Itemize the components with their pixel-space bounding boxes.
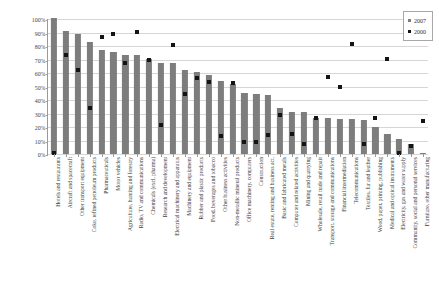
bar-column	[167, 19, 179, 154]
marker-2000	[159, 123, 163, 127]
bar-column	[215, 19, 227, 154]
category-label-text: Chemicals (excl. pharma)	[150, 157, 156, 215]
bar-column	[143, 19, 155, 154]
marker-2000	[421, 119, 425, 123]
bar-2007	[158, 63, 164, 154]
bar-2007	[206, 75, 212, 154]
bar-column	[262, 19, 274, 154]
category-label-text: Wood, paper, printing, publishing	[377, 157, 383, 232]
category-label-text: Financial intermediation	[341, 157, 347, 212]
bar-2007	[194, 72, 200, 154]
category-label: Aircraft and spacecraft	[67, 157, 73, 208]
bar-2007	[301, 112, 307, 154]
bar-column	[346, 19, 358, 154]
chart-legend: 2007 2000	[403, 11, 434, 41]
category-label-text: Wholesale, retail trade and repair	[317, 157, 323, 231]
marker-2000	[314, 116, 318, 120]
y-tick-label: 60%	[35, 71, 46, 77]
marker-2000	[254, 140, 258, 144]
category-label: Electrical machinery and apparatus	[174, 157, 180, 236]
category-label-text: Telecommunications	[353, 157, 359, 204]
category-label-text: Non-metallic mineral products	[234, 157, 240, 226]
category-label-text: Transport, storage and communications	[329, 157, 335, 245]
category-label: Other transport equipment	[79, 157, 85, 216]
category-label: Rubber and plastic products	[198, 157, 204, 220]
bar-2007	[384, 134, 390, 154]
bar-2007	[170, 63, 176, 154]
bar-2007	[63, 31, 69, 154]
y-tick-label: 20%	[35, 125, 46, 131]
category-label: Real estate, renting and business act.	[269, 157, 275, 239]
category-label: Pharmaceuticals	[103, 157, 109, 194]
y-tick-label: 50%	[35, 85, 46, 91]
bar-2007	[325, 118, 331, 154]
bar-2007	[253, 94, 259, 154]
category-label: Basic and fabricated metals	[281, 157, 287, 219]
marker-2000	[350, 42, 354, 46]
legend-swatch-2000	[408, 30, 412, 34]
marker-2000	[64, 53, 68, 57]
bar-column	[227, 19, 239, 154]
y-tick-label: 0%	[38, 152, 46, 158]
category-label: Other business activities	[222, 157, 228, 212]
bar-2007	[337, 119, 343, 154]
marker-2000	[183, 92, 187, 96]
category-label: Coke, refined petroleum products	[91, 157, 97, 232]
bar-column	[322, 19, 334, 154]
category-label-text: Agriculture, hunting and forestry	[127, 157, 133, 231]
marker-2000	[385, 57, 389, 61]
bar-2007	[75, 34, 81, 154]
marker-2000	[147, 58, 151, 62]
category-label-text: Research and development	[162, 157, 168, 217]
category-label: Chemicals (excl. pharma)	[150, 157, 156, 215]
bar-2007	[265, 95, 271, 154]
marker-2000	[266, 133, 270, 137]
gridline: 0%	[48, 154, 428, 155]
bar-column	[274, 19, 286, 154]
bar-2007	[122, 55, 128, 154]
bar-2007	[349, 119, 355, 154]
category-label: Financial intermediation	[341, 157, 347, 212]
category-label: Research and development	[162, 157, 168, 217]
marker-2000	[409, 144, 413, 148]
category-label-text: Computer and related activities	[293, 157, 299, 227]
category-label: Community, social and personal services	[412, 157, 418, 248]
bar-2007	[51, 18, 57, 154]
category-label: Motor vehicles	[115, 157, 121, 191]
category-label-text: Aircraft and spacecraft	[67, 157, 73, 208]
bar-column	[108, 19, 120, 154]
category-label: Furniture, other manufacturing	[424, 157, 430, 226]
bar-column	[155, 19, 167, 154]
bar-2007	[98, 50, 104, 154]
bar-column	[96, 19, 108, 154]
marker-2000	[362, 142, 366, 146]
marker-2000	[278, 113, 282, 117]
category-label: Non-metallic mineral products	[234, 157, 240, 226]
bar-2007	[182, 70, 188, 154]
y-tick-label: 10%	[35, 139, 46, 145]
y-tick-label: 70%	[35, 58, 46, 64]
marker-2000	[373, 116, 377, 120]
legend-item: 2007	[408, 15, 427, 26]
category-label: Telecommunications	[353, 157, 359, 204]
category-label-text: Office machinery, computers	[246, 157, 252, 222]
bar-column	[286, 19, 298, 154]
legend-swatch-2007	[408, 19, 412, 23]
marker-2000	[111, 32, 115, 36]
bar-column	[310, 19, 322, 154]
bar-2007	[229, 84, 235, 154]
category-label-text: Pharmaceuticals	[103, 157, 109, 194]
category-label: Construction	[258, 157, 264, 186]
legend-label-2007: 2007	[414, 18, 426, 24]
marker-2000	[242, 140, 246, 144]
category-label-text: Coke, refined petroleum products	[91, 157, 97, 232]
marker-2000	[219, 134, 223, 138]
category-label-text: Basic and fabricated metals	[281, 157, 287, 219]
category-label-text: Other transport equipment	[79, 157, 85, 216]
category-label-text: Food, beverages and tobacco	[210, 157, 216, 222]
bar-column	[381, 19, 393, 154]
category-label-text: Furniture, other manufacturing	[424, 157, 430, 226]
marker-2000	[88, 106, 92, 110]
category-label: Transport, storage and communications	[329, 157, 335, 245]
legend-item: 2000	[408, 26, 427, 37]
